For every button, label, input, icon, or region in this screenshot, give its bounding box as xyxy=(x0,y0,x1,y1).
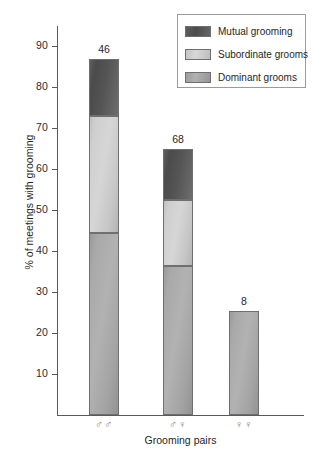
legend-item-subordinate-grooms: Subordinate grooms xyxy=(185,44,305,65)
x-category-label-male-female: ♂♀ xyxy=(143,418,213,430)
y-tick-10 xyxy=(52,374,57,375)
bar-segment-male-male-mutual xyxy=(89,59,119,116)
bar-value-label-female-female: 8 xyxy=(214,295,274,307)
bar-segment-male-male-subordinate xyxy=(89,116,119,233)
bar-value-label-male-female: 68 xyxy=(148,133,208,145)
x-category-label-male-male: ♂♂ xyxy=(69,418,139,430)
legend-item-mutual-grooming: Mutual grooming xyxy=(185,21,305,42)
y-tick-70 xyxy=(52,128,57,129)
y-tick-60 xyxy=(52,169,57,170)
legend-label-dominant-grooms: Dominant grooms xyxy=(218,72,297,83)
x-axis-title: Grooming pairs xyxy=(57,434,304,446)
y-tick-40 xyxy=(52,251,57,252)
y-axis-title: % of meetings with grooming xyxy=(23,117,35,287)
stacked-bar-chart: 102030405060708090 % of meetings with gr… xyxy=(0,0,314,452)
y-tick-80 xyxy=(52,87,57,88)
legend-label-mutual-grooming: Mutual grooming xyxy=(218,26,292,37)
y-tick-label-10: 10 xyxy=(24,367,48,379)
bar-segment-male-female-mutual xyxy=(163,149,193,200)
y-axis-line xyxy=(57,26,58,416)
bar-segment-male-female-subordinate xyxy=(163,200,193,266)
bar-segment-male-female-dominant xyxy=(163,266,193,415)
y-tick-label-80: 80 xyxy=(24,80,48,92)
bar-segment-female-female-dominant xyxy=(229,311,259,415)
chart-legend: Mutual grooming Subordinate grooms Domin… xyxy=(177,14,306,88)
y-tick-20 xyxy=(52,333,57,334)
y-tick-label-20: 20 xyxy=(24,326,48,338)
y-tick-label-90: 90 xyxy=(24,39,48,51)
legend-swatch-subordinate-grooms xyxy=(185,49,211,60)
bar-segment-male-male-dominant xyxy=(89,233,119,415)
y-tick-50 xyxy=(52,210,57,211)
legend-item-dominant-grooms: Dominant grooms xyxy=(185,67,305,88)
legend-label-subordinate-grooms: Subordinate grooms xyxy=(218,49,308,60)
legend-swatch-mutual-grooming xyxy=(185,26,211,37)
y-tick-30 xyxy=(52,292,57,293)
bar-value-label-male-male: 46 xyxy=(74,43,134,55)
x-axis-line xyxy=(57,415,304,416)
legend-swatch-dominant-grooms xyxy=(185,72,211,83)
x-category-label-female-female: ♀♀ xyxy=(209,418,279,430)
y-tick-90 xyxy=(52,46,57,47)
